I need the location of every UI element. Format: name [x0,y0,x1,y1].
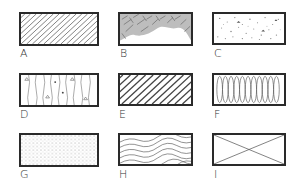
scribble-crosshatch-pattern-icon [120,14,191,44]
wood-grain-pattern-icon [120,135,191,164]
swatch-i-label: I [214,168,217,181]
swatch-b-box [118,12,193,46]
swatch-b-label: B [120,47,127,60]
swatch-h-label: H [119,168,127,181]
diagonal-hatch-pattern-icon [21,14,97,44]
swatch-d-label: D [20,108,28,121]
swatch-g-box [19,133,99,167]
swatch-h-box [118,133,193,166]
swatch-e-label: E [119,108,126,121]
swatch-e-box [118,73,193,106]
swatch-c-label: C [214,47,222,60]
stipple-pattern-icon [214,14,284,43]
swatch-a-box [19,12,99,46]
vertical-wavy-pattern-icon [21,75,97,105]
swatch-f-box [212,73,286,106]
fine-stipple-pattern-icon [21,135,97,165]
vertical-loops-pattern-icon [214,75,284,104]
swatch-i-box [212,133,286,166]
double-diagonal-hatch-pattern-icon [120,75,191,104]
swatch-d-box [19,73,99,107]
swatch-c-box [212,12,286,45]
cross-x-pattern-icon [214,135,284,164]
swatch-a-label: A [20,47,28,60]
swatch-g-label: G [20,168,29,181]
swatch-f-label: F [214,108,220,121]
